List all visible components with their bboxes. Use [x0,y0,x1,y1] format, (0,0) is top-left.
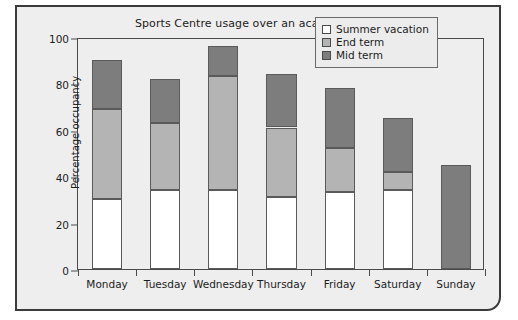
y-tick-label: 20 [56,219,78,231]
bar-segment[interactable] [92,109,122,199]
x-tick-mark [78,269,79,276]
bar-saturday[interactable] [383,37,413,269]
bar-segment[interactable] [441,165,471,269]
bar-monday[interactable] [92,37,122,269]
legend-swatch [322,38,331,47]
bar-sunday[interactable] [441,37,471,269]
legend-swatch [322,25,331,34]
bar-segment[interactable] [92,60,122,109]
bar-thursday[interactable] [266,37,296,269]
bar-segment[interactable] [325,88,355,148]
x-tick-label: Monday [86,278,127,290]
legend-label: Mid term [336,49,383,61]
x-tick-mark [369,269,370,276]
plot-area: Percentage occupancy 020406080100 Monday… [77,38,484,270]
chart-legend: Summer vacationEnd termMid term [315,17,438,68]
bar-segment[interactable] [325,148,355,192]
bar-segment[interactable] [325,192,355,269]
y-tick-label: 60 [56,126,78,138]
x-tick-label: Friday [324,278,356,290]
x-tick-label: Thursday [257,278,306,290]
bar-segment[interactable] [150,190,180,269]
bar-segment[interactable] [150,79,180,123]
legend-item[interactable]: Mid term [322,49,429,61]
bar-wednesday[interactable] [208,37,238,269]
bar-segment[interactable] [266,74,296,127]
x-tick-label: Saturday [374,278,421,290]
legend-swatch [322,51,331,60]
x-tick-label: Tuesday [144,278,187,290]
bar-segment[interactable] [383,190,413,269]
x-tick-label: Wednesday [193,278,254,290]
x-tick-label: Sunday [436,278,475,290]
bar-friday[interactable] [325,37,355,269]
bar-segment[interactable] [208,46,238,76]
x-tick-mark [427,269,428,276]
x-tick-mark [194,269,195,276]
x-tick-mark [311,269,312,276]
legend-label: End term [336,36,384,48]
y-tick-label: 0 [62,265,78,277]
x-tick-mark [252,269,253,276]
legend-item[interactable]: Summer vacation [322,23,429,35]
bar-tuesday[interactable] [150,37,180,269]
bar-segment[interactable] [383,172,413,191]
bar-segment[interactable] [208,76,238,190]
legend-label: Summer vacation [336,23,429,35]
y-tick-label: 80 [56,79,78,91]
bar-segment[interactable] [383,118,413,171]
y-tick-label: 40 [56,172,78,184]
bar-segment[interactable] [150,123,180,190]
x-tick-mark [136,269,137,276]
chart-figure: Sports Centre usage over an academic yea… [15,5,501,311]
legend-item[interactable]: End term [322,36,429,48]
bar-segment[interactable] [266,128,296,198]
y-tick-label: 100 [49,33,78,45]
x-tick-mark [485,269,486,276]
bar-segment[interactable] [208,190,238,269]
bar-segment[interactable] [266,197,296,269]
bar-segment[interactable] [92,199,122,269]
